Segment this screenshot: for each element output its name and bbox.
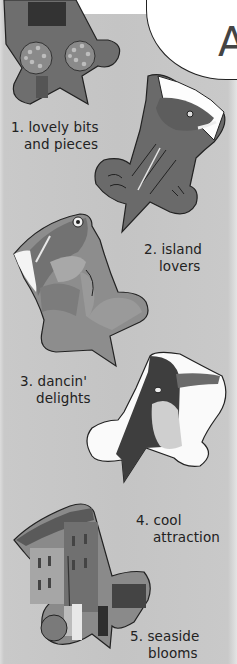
caption-line-1: 5. seaside [130,628,199,644]
caption-line-2: blooms [130,645,199,662]
caption-item-5: 5. seaside blooms [130,628,199,662]
caption-item-2: 2. island lovers [144,241,202,275]
caption-line-1: 3. dancin' [20,373,87,389]
street-photo-star-icon [14,504,150,648]
penguin-painting-star-icon [87,352,226,482]
magazine-page: A [0,0,237,664]
caption-line-2: attraction [136,529,220,546]
caption-item-4: 4. cool attraction [136,512,220,546]
shark-painting-star-icon [95,75,225,232]
star-artworks [0,0,237,664]
caption-item-3: 3. dancin' delights [20,373,91,407]
village-painting-star-icon [4,0,120,104]
caption-line-1: 4. cool [136,512,182,528]
caption-line-1: 1. lovely bits [11,119,99,135]
fish-dancer-painting-star-icon [14,214,148,366]
caption-line-2: lovers [144,258,202,275]
caption-line-2: delights [20,390,91,407]
caption-line-1: 2. island [144,241,202,257]
caption-line-2: and pieces [11,136,99,153]
caption-item-1: 1. lovely bits and pieces [11,119,99,153]
